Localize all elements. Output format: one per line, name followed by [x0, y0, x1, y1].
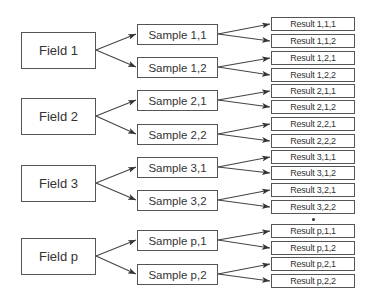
sample-box-1-1: Sample 1,1 [137, 24, 218, 45]
sample-box-1-2: Sample 1,2 [137, 57, 218, 78]
result-box-p-1-2: Result p,1,2 [271, 241, 355, 255]
sample-box-2-2: Sample 2,2 [137, 124, 218, 145]
field-box-1: Field 1 [21, 32, 96, 69]
result-box-2-1-1: Result 2,1,1 [271, 84, 355, 98]
field-box-3: Field 3 [21, 165, 96, 202]
ellipsis-dot [312, 218, 315, 221]
result-box-2-2-2: Result 2,2,2 [271, 134, 355, 148]
result-box-2-1-2: Result 2,1,2 [271, 100, 355, 114]
field-box-p: Field p [21, 238, 96, 275]
result-box-3-2-2: Result 3,2,2 [271, 200, 355, 214]
result-box-p-2-2: Result p,2,2 [271, 274, 355, 288]
result-box-p-1-1: Result p,1,1 [271, 224, 355, 238]
sample-box-3-1: Sample 3,1 [137, 157, 218, 178]
result-box-3-1-1: Result 3,1,1 [271, 150, 355, 164]
sample-box-p-1: Sample p,1 [137, 230, 218, 251]
field-box-2: Field 2 [21, 98, 96, 135]
result-box-2-2-1: Result 2,2,1 [271, 117, 355, 131]
result-box-p-2-1: Result p,2,1 [271, 257, 355, 271]
sample-box-p-2: Sample p,2 [137, 264, 218, 285]
sample-box-3-2: Sample 3,2 [137, 190, 218, 211]
result-box-3-1-2: Result 3,1,2 [271, 166, 355, 180]
result-box-1-2-2: Result 1,2,2 [271, 68, 355, 82]
sample-box-2-1: Sample 2,1 [137, 90, 218, 111]
result-box-1-2-1: Result 1,2,1 [271, 51, 355, 65]
result-box-1-1-1: Result 1,1,1 [271, 17, 355, 31]
result-box-1-1-2: Result 1,1,2 [271, 34, 355, 48]
result-box-3-2-1: Result 3,2,1 [271, 183, 355, 197]
